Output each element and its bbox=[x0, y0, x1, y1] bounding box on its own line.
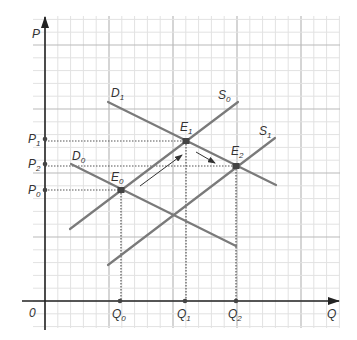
quantity-tick-Q0 bbox=[118, 299, 123, 304]
curve-label-S1: S1 bbox=[259, 124, 271, 140]
quantity-label-Q2: Q2 bbox=[228, 307, 242, 323]
quantity-label-Q1: Q1 bbox=[177, 307, 191, 323]
supply-curve-S0 bbox=[70, 102, 238, 229]
origin-label: 0 bbox=[29, 306, 36, 320]
price-tick-P0 bbox=[43, 188, 48, 193]
supply-demand-diagram: PQ0P1P2P0Q0Q1Q2D0D1S0S1E0E1E2 bbox=[0, 0, 357, 340]
price-label-P2: P2 bbox=[28, 157, 41, 173]
equilibrium-point-E0 bbox=[118, 187, 125, 193]
x-axis-label: Q bbox=[327, 307, 336, 321]
equilibrium-label-E2: E2 bbox=[231, 144, 244, 160]
quantity-tick-Q2 bbox=[234, 299, 239, 304]
equilibrium-point-E1 bbox=[183, 138, 190, 144]
curve-label-S0: S0 bbox=[218, 88, 231, 104]
labels: PQ0P1P2P0Q0Q1Q2D0D1S0S1E0E1E2 bbox=[28, 27, 336, 323]
price-tick-P1 bbox=[43, 137, 48, 142]
quantity-label-Q0: Q0 bbox=[112, 307, 126, 323]
equilibrium-point-E2 bbox=[233, 163, 240, 169]
equilibrium-label-E1: E1 bbox=[180, 120, 192, 136]
price-tick-P2 bbox=[43, 162, 48, 167]
quantity-tick-Q1 bbox=[183, 299, 188, 304]
movement-arrows bbox=[140, 152, 215, 186]
y-axis-label: P bbox=[32, 27, 40, 41]
